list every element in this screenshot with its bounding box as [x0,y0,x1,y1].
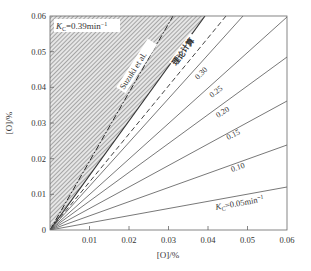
label-005: KC=0.05min−1 [214,194,265,214]
svg-text:0.02: 0.02 [31,154,46,164]
label-010: 0.10 [230,161,246,174]
label-015: 0.15 [225,128,242,142]
line-005 [50,187,287,230]
svg-text:0.04: 0.04 [31,82,47,92]
x-tick-labels: 0.01 0.02 0.03 0.04 0.05 0.06 [82,235,294,245]
label-020: 0.20 [214,105,231,120]
svg-text:0.01: 0.01 [31,189,46,199]
x-axis-label: [O]/% [157,250,180,260]
svg-text:0.03: 0.03 [161,235,176,245]
svg-text:0.02: 0.02 [122,235,137,245]
svg-text:0.04: 0.04 [201,235,217,245]
label-030: 0.30 [193,65,209,81]
svg-text:0.05: 0.05 [240,235,255,245]
y-tick-labels: 0 0.01 0.02 0.03 0.04 0.05 0.06 [31,11,47,235]
oxygen-chart: 0.01 0.02 0.03 0.04 0.05 0.06 0 0.01 0.0… [0,0,311,271]
svg-text:0.05: 0.05 [31,47,46,57]
y-axis-label: [O]/% [4,111,14,134]
svg-text:0.03: 0.03 [31,118,46,128]
svg-text:0.06: 0.06 [280,235,295,245]
svg-text:0.01: 0.01 [82,235,97,245]
svg-text:0: 0 [42,225,46,235]
svg-text:0.06: 0.06 [31,11,46,21]
